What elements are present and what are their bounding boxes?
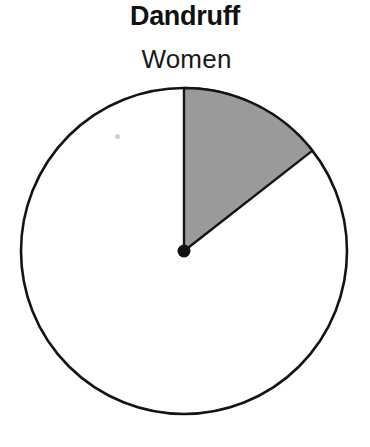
pie-center-dot	[178, 245, 191, 258]
pie-chart-graphic	[0, 0, 370, 447]
dandruff-pie-figure: Dandruff Women	[0, 0, 370, 447]
scan-artifact-speck	[115, 134, 120, 139]
